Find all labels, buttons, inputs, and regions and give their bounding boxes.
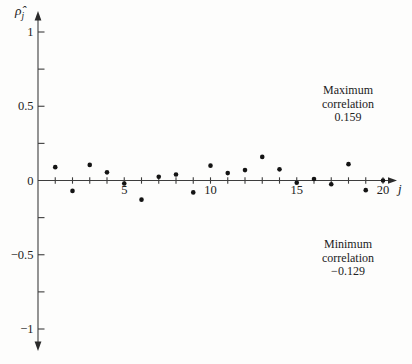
- x-axis-label: j: [398, 181, 402, 197]
- data-point: [277, 167, 282, 172]
- data-point: [53, 165, 58, 170]
- plot-area: 10.50−0.5−15101520: [0, 0, 412, 364]
- data-point: [156, 174, 161, 179]
- min-correlation-line2: correlation: [296, 252, 400, 266]
- x-tick-label: 20: [377, 183, 390, 197]
- y-tick-label: 0.5: [18, 99, 34, 113]
- data-point: [363, 188, 368, 193]
- data-point: [87, 163, 92, 168]
- max-correlation-annotation: Maximum correlation 0.159: [296, 84, 400, 125]
- data-point: [243, 168, 248, 173]
- data-point: [346, 162, 351, 167]
- correlogram-figure: 10.50−0.5−15101520 ρ̂j j Maximum correla…: [0, 0, 412, 364]
- x-tick-label: 10: [204, 183, 217, 197]
- x-axis-arrowhead-icon: [388, 177, 397, 184]
- max-correlation-value: 0.159: [296, 111, 400, 125]
- y-axis-down-arrowhead-icon: [35, 342, 42, 352]
- data-point: [208, 163, 213, 168]
- data-point: [122, 181, 127, 186]
- y-tick-label: −0.5: [11, 248, 34, 262]
- min-correlation-value: −0.129: [296, 265, 400, 279]
- data-point: [329, 182, 334, 187]
- data-point: [105, 170, 110, 175]
- min-correlation-line1: Minimum: [296, 238, 400, 252]
- y-axis-label: ρ̂j: [15, 3, 24, 21]
- data-point: [191, 190, 196, 195]
- data-point: [294, 180, 299, 185]
- y-tick-label: −1: [20, 322, 33, 336]
- y-axis-label-subscript: j: [21, 11, 24, 21]
- data-point: [225, 171, 230, 176]
- max-correlation-line1: Maximum: [296, 84, 400, 98]
- y-tick-label: 0: [27, 174, 33, 188]
- data-point: [174, 172, 179, 177]
- data-point: [260, 155, 265, 160]
- data-point: [70, 189, 75, 194]
- data-point: [381, 178, 386, 183]
- y-tick-label: 1: [27, 25, 33, 39]
- max-correlation-line2: correlation: [296, 98, 400, 112]
- data-point: [312, 177, 317, 182]
- y-axis-up-arrowhead-icon: [35, 11, 42, 21]
- data-point: [139, 197, 144, 202]
- min-correlation-annotation: Minimum correlation −0.129: [296, 238, 400, 279]
